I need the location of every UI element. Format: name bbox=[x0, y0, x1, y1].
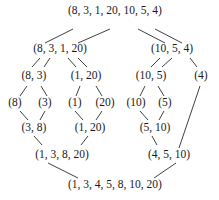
node-rl: (10, 5) bbox=[136, 69, 167, 81]
node-m_l: (1, 3, 8, 20) bbox=[35, 148, 89, 160]
node-rll: (10) bbox=[126, 96, 145, 108]
node-r: (10, 5, 4) bbox=[151, 42, 193, 54]
node-ll: (8, 3) bbox=[22, 69, 47, 81]
tree-edge bbox=[32, 58, 40, 67]
node-root: (8, 3, 1, 20, 10, 5, 4) bbox=[68, 4, 162, 16]
tree-edge bbox=[162, 58, 172, 67]
node-m_r: (4, 5, 10) bbox=[148, 148, 190, 160]
node-rr: (4) bbox=[194, 69, 207, 81]
tree-edge bbox=[151, 58, 160, 67]
node-m_ll: (3, 8) bbox=[22, 121, 47, 133]
node-lrr: (20) bbox=[95, 96, 114, 108]
tree-edge bbox=[75, 111, 83, 120]
node-m_lr: (1, 20) bbox=[75, 121, 106, 133]
tree-edge bbox=[96, 86, 102, 96]
tree-edge bbox=[81, 136, 88, 145]
node-rlr: (5) bbox=[158, 96, 171, 108]
tree-edge bbox=[78, 58, 87, 67]
tree-edge bbox=[20, 111, 28, 120]
tree-edge bbox=[34, 136, 42, 145]
node-lll: (8) bbox=[8, 96, 21, 108]
tree-edge bbox=[138, 29, 165, 43]
tree-edge bbox=[155, 29, 182, 43]
node-lr: (1, 20) bbox=[71, 69, 102, 81]
tree-edge bbox=[68, 58, 76, 67]
tree-edge bbox=[76, 86, 80, 96]
node-llr: (3) bbox=[38, 96, 51, 108]
tree-edge bbox=[20, 86, 27, 96]
node-l: (8, 3, 1, 20) bbox=[33, 42, 87, 54]
node-result: (1, 3, 4, 5, 8, 10, 20) bbox=[68, 178, 162, 190]
tree-edge bbox=[154, 163, 176, 178]
tree-edge bbox=[44, 58, 50, 67]
tree-edge bbox=[96, 111, 102, 120]
tree-edge bbox=[45, 29, 73, 43]
tree-edge bbox=[159, 111, 164, 120]
tree-edge bbox=[179, 86, 200, 148]
tree-edge bbox=[152, 136, 157, 145]
tree-edge bbox=[158, 86, 164, 96]
tree-edge bbox=[41, 86, 47, 96]
node-lrl: (1) bbox=[68, 96, 81, 108]
tree-edge bbox=[78, 29, 110, 43]
node-m_rl: (5, 10) bbox=[140, 121, 171, 133]
tree-edge bbox=[48, 163, 78, 178]
tree-edge bbox=[40, 111, 45, 120]
tree-edge bbox=[190, 58, 197, 67]
tree-edge bbox=[140, 111, 148, 120]
tree-edge bbox=[140, 86, 145, 96]
